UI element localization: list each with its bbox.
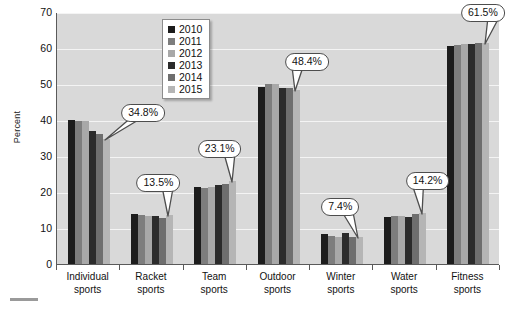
legend-item[interactable]: 2010 [168,23,202,35]
x-axis-label: Outdoorsports [243,271,313,296]
value-callout: 61.5% [461,4,505,22]
bar[interactable] [398,216,405,264]
bar[interactable] [258,87,265,264]
legend-item[interactable]: 2011 [168,35,202,47]
legend-label: 2012 [179,48,202,59]
y-tick-label: 10 [26,223,52,234]
callout-pointer [321,212,362,242]
y-tick-label: 60 [26,43,52,54]
value-callout: 34.8% [121,104,165,122]
x-axis-label-line: Outdoor [243,271,313,284]
x-tick [246,265,247,270]
bar-group [258,13,300,264]
legend-item[interactable]: 2013 [168,59,202,71]
callout-pointer [285,67,329,95]
bar[interactable] [468,44,475,264]
bar[interactable] [454,45,461,264]
x-axis-label-line: Water [369,271,439,284]
value-callout: 14.2% [406,172,450,190]
x-tick [309,265,310,270]
bar[interactable] [201,188,208,264]
bar[interactable] [152,216,159,264]
value-callout: 48.4% [285,53,329,71]
callout-pointer [198,154,242,186]
corner-mark [10,298,38,301]
bar[interactable] [166,215,173,264]
bar[interactable] [89,131,96,264]
value-callout: 7.4% [321,198,359,216]
legend-label: 2011 [179,36,202,47]
x-tick [436,265,437,270]
x-axis-label-line: sports [306,284,376,297]
x-axis-label-line: sports [243,284,313,297]
bar[interactable] [286,88,293,264]
x-axis-label: Fitnesssports [432,271,502,296]
bar[interactable] [145,216,152,264]
bar[interactable] [419,213,426,264]
value-callout: 23.1% [198,140,242,158]
y-tick-label: 30 [26,151,52,162]
x-axis-label-line: sports [369,284,439,297]
legend-swatch-icon [168,62,175,69]
callout-pointer [136,188,180,220]
bar[interactable] [482,43,489,264]
bar[interactable] [272,84,279,264]
bar[interactable] [131,214,138,264]
bar[interactable] [68,120,75,264]
bar[interactable] [82,121,89,264]
bar[interactable] [391,216,398,264]
x-tick [372,265,373,270]
x-axis-label-line: Racket [116,271,186,284]
x-tick [499,265,500,270]
bar-group [447,13,489,264]
legend-label: 2014 [179,72,202,83]
x-axis-label-line: sports [116,284,186,297]
legend: 201020112012201320142015 [162,19,210,99]
x-axis-label-line: sports [179,284,249,297]
bar[interactable] [229,181,236,264]
x-axis-label-line: Team [179,271,249,284]
callout-pointer [406,186,450,218]
legend-swatch-icon [168,74,175,81]
x-axis-label-line: sports [53,284,123,297]
legend-label: 2015 [179,84,202,95]
value-callout: 13.5% [137,174,181,192]
bar[interactable] [159,218,166,264]
y-tick-label: 20 [26,187,52,198]
legend-swatch-icon [168,50,175,57]
y-tick-label: 50 [26,79,52,90]
bar[interactable] [222,184,229,264]
bar[interactable] [208,187,215,264]
bar[interactable] [412,214,419,264]
bar[interactable] [265,84,272,264]
y-tick-label: 70 [26,7,52,18]
bar[interactable] [279,88,286,264]
legend-item[interactable]: 2014 [168,71,202,83]
bar[interactable] [75,121,82,264]
x-axis-label-line: Individual [53,271,123,284]
legend-label: 2010 [179,24,202,35]
bar[interactable] [138,215,145,264]
x-axis-label: Watersports [369,271,439,296]
callout-pointer [461,18,505,48]
x-axis-label: Wintersports [306,271,376,296]
x-tick [183,265,184,270]
legend-item[interactable]: 2012 [168,47,202,59]
y-axis-tick-labels: 706050403020100 [20,0,52,310]
bar[interactable] [384,217,391,264]
bar[interactable] [461,44,468,264]
legend-item[interactable]: 2015 [168,83,202,95]
bar[interactable] [96,134,103,264]
x-tick [119,265,120,270]
bar[interactable] [293,90,300,264]
x-axis-label: Teamsports [179,271,249,296]
bar[interactable] [103,139,110,264]
bar[interactable] [475,43,482,264]
legend-label: 2013 [179,60,202,71]
bar[interactable] [194,187,201,264]
bar[interactable] [215,185,222,264]
bar-chart: Percent 706050403020100 Individualsports… [0,0,515,310]
bar[interactable] [405,217,412,264]
bar[interactable] [447,46,454,264]
x-axis-label: Individualsports [53,271,123,296]
